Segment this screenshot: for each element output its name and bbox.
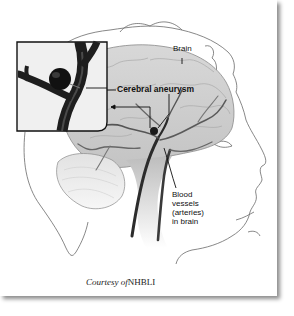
- inset-magnified-view: [17, 42, 107, 131]
- cerebellum-shape: [57, 154, 125, 209]
- caption-of: of: [121, 277, 128, 287]
- label-blood-vessels: Blood vessels (arteries) in brain: [172, 190, 204, 226]
- aneurysm-dot: [150, 127, 158, 135]
- label-blood-vessels-line2: vessels: [172, 199, 204, 208]
- label-blood-vessels-line4: in brain: [172, 217, 204, 226]
- image-caption: Courtesy ofNHBLI: [86, 277, 155, 287]
- caption-prefix: Courtesy: [86, 277, 119, 287]
- label-brain: Brain: [173, 44, 192, 53]
- label-blood-vessels-line3: (arteries): [172, 208, 204, 217]
- illustration-card: Brain Cerebral aneurysm Blood vessels (a…: [0, 0, 277, 296]
- label-blood-vessels-line1: Blood: [172, 190, 204, 199]
- anatomy-illustration: [0, 0, 277, 296]
- label-cerebral-aneurysm: Cerebral aneurysm: [117, 85, 194, 94]
- caption-source: NHBLI: [128, 277, 156, 287]
